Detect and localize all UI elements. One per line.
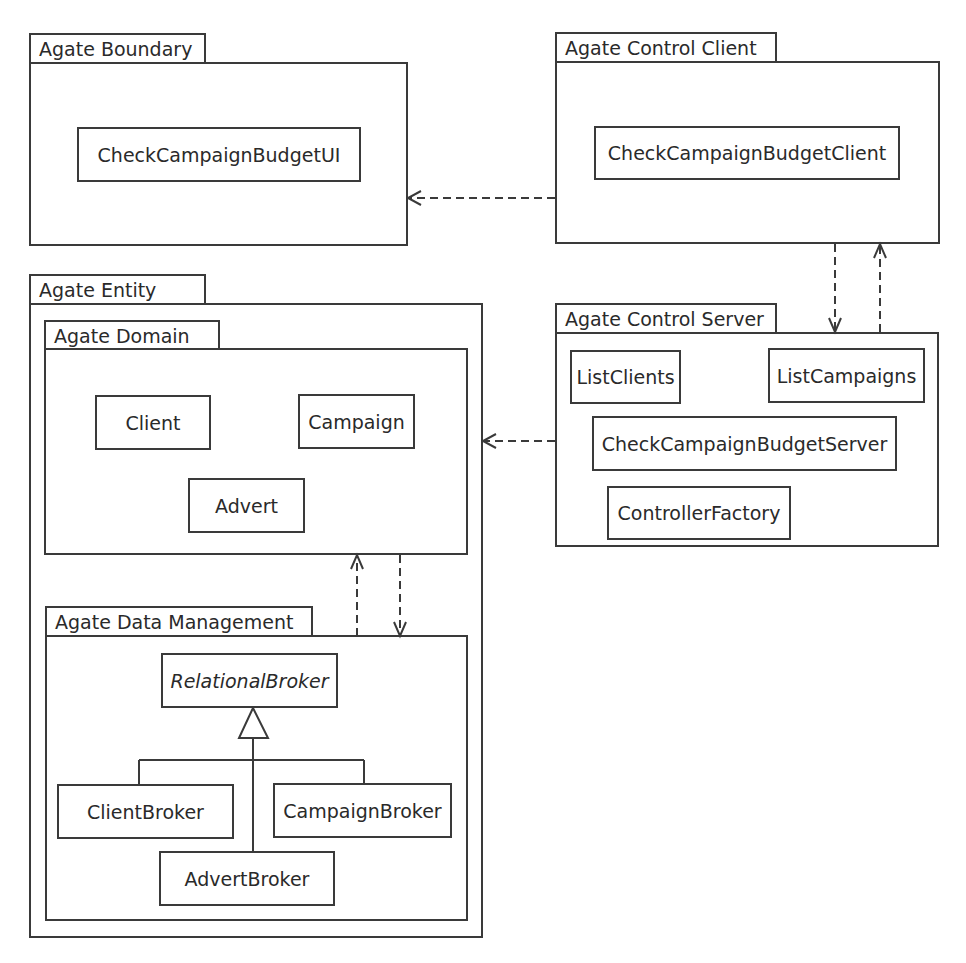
class-label: ListClients (576, 366, 674, 388)
package-tab-agate-data-management: Agate Data Management (45, 606, 313, 637)
package-tab-agate-entity: Agate Entity (29, 274, 206, 305)
class-label: Campaign (308, 411, 405, 433)
package-label: Agate Data Management (55, 611, 293, 633)
package-tab-agate-control-client: Agate Control Client (555, 32, 777, 63)
package-label: Agate Boundary (39, 38, 192, 60)
class-label: Advert (215, 495, 278, 517)
class-label: ControllerFactory (618, 502, 781, 524)
class-label: RelationalBroker (170, 670, 328, 692)
dependency-arrow-client-to-boundary (408, 191, 555, 205)
package-tab-agate-control-server: Agate Control Server (555, 303, 777, 334)
class-client-broker[interactable]: ClientBroker (57, 784, 234, 839)
class-check-campaign-budget-client[interactable]: CheckCampaignBudgetClient (594, 126, 900, 180)
class-campaign-broker[interactable]: CampaignBroker (273, 783, 452, 838)
class-list-campaigns[interactable]: ListCampaigns (768, 348, 925, 403)
class-label: ClientBroker (87, 801, 204, 823)
class-label: CheckCampaignBudgetUI (98, 144, 341, 166)
package-label: Agate Control Client (565, 37, 757, 59)
class-label: AdvertBroker (185, 868, 310, 890)
class-list-clients[interactable]: ListClients (570, 350, 681, 404)
package-label: Agate Entity (39, 279, 156, 301)
class-label: ListCampaigns (777, 365, 917, 387)
open-arrowhead-icon (874, 244, 886, 258)
class-label: CheckCampaignBudgetServer (602, 433, 888, 455)
class-campaign[interactable]: Campaign (298, 394, 415, 449)
open-arrowhead-icon (408, 191, 421, 205)
dependency-arrow-server-to-domain (483, 434, 555, 448)
class-check-campaign-budget-server[interactable]: CheckCampaignBudgetServer (592, 416, 897, 471)
class-label: CheckCampaignBudgetClient (608, 142, 886, 164)
package-label: Agate Domain (54, 325, 190, 347)
class-label: Client (125, 412, 180, 434)
open-arrowhead-icon (483, 434, 496, 448)
package-label: Agate Control Server (565, 308, 764, 330)
open-arrowhead-icon (829, 318, 841, 332)
package-tab-agate-domain: Agate Domain (44, 320, 220, 350)
class-advert-broker[interactable]: AdvertBroker (159, 851, 335, 906)
class-label: CampaignBroker (283, 800, 441, 822)
class-relational-broker[interactable]: RelationalBroker (161, 653, 338, 708)
dependency-arrow-server-to-client (874, 244, 886, 332)
class-check-campaign-budget-ui[interactable]: CheckCampaignBudgetUI (77, 127, 361, 182)
package-tab-agate-boundary: Agate Boundary (29, 33, 206, 64)
class-controller-factory[interactable]: ControllerFactory (607, 486, 791, 540)
dependency-arrow-client-to-server (829, 244, 841, 332)
class-client[interactable]: Client (95, 395, 211, 450)
class-advert[interactable]: Advert (188, 478, 305, 533)
